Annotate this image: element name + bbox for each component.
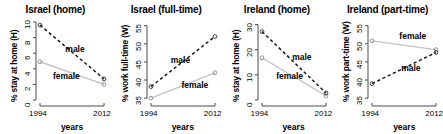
y-axis-tick-label: 0	[23, 103, 32, 107]
y-axis-tick-label: 40	[134, 78, 143, 87]
y-axis-tick-label: 45	[355, 60, 364, 69]
x-axis	[151, 103, 215, 106]
y-axis-tick-label: 0	[245, 103, 254, 107]
x-axis	[372, 103, 436, 106]
y-axis-tick-label: 35	[134, 96, 143, 105]
y-axis-tick-label: 30	[245, 23, 254, 32]
series-annotation-label: female	[181, 80, 208, 90]
series-annotation-label: male	[65, 44, 84, 54]
chart-panel: Ireland (home)% stay at home (H)years010…	[222, 0, 333, 134]
x-axis-tick-label: 2012	[425, 109, 443, 118]
x-axis-tick-label: 2012	[93, 109, 111, 118]
y-axis-tick-label: 35	[355, 96, 364, 105]
y-axis-tick-label: 10	[245, 73, 254, 82]
series-annotation-label: female	[276, 71, 303, 81]
y-axis	[255, 25, 258, 100]
series-annotation-label: male	[401, 63, 420, 73]
x-axis	[40, 103, 104, 106]
chart-panel: Ireland (part-time)% work part-time (W)y…	[332, 0, 443, 134]
y-axis-tick-label: 55	[134, 24, 143, 33]
series-annotation-label: female	[399, 31, 426, 41]
y-axis-tick-label: 55	[355, 24, 364, 33]
y-axis-tick-label: 8	[23, 40, 32, 44]
y-axis	[144, 26, 147, 99]
y-axis-tick-label: 4	[23, 71, 32, 75]
series-annotation-label: male	[171, 55, 190, 65]
x-axis-tick-label: 1994	[361, 109, 379, 118]
y-axis-tick-label: 10	[23, 20, 32, 29]
chart-panel: Israel (home)% stay at home (H)years0246…	[0, 0, 111, 134]
x-axis-tick-label: 1994	[29, 109, 47, 118]
series-annotation-label: female	[53, 71, 80, 81]
y-axis	[33, 22, 36, 100]
y-axis-tick-label: 50	[134, 42, 143, 51]
y-axis-tick-label: 20	[245, 48, 254, 57]
y-axis-tick-label: 45	[134, 60, 143, 69]
series-annotation-label: male	[292, 52, 311, 62]
x-axis-tick-label: 2012	[315, 109, 333, 118]
y-axis-tick-label: 6	[23, 56, 32, 60]
chart-panel: Israel (full-time)% work full-time (W)ye…	[111, 0, 222, 134]
y-axis-tick-label: 40	[355, 78, 364, 87]
x-axis	[262, 103, 326, 106]
multi-panel-line-chart-figure: Israel (home)% stay at home (H)years0246…	[0, 0, 443, 134]
x-axis-tick-label: 1994	[140, 109, 158, 118]
y-axis	[365, 26, 368, 99]
x-axis-tick-label: 2012	[204, 109, 222, 118]
y-axis-tick-label: 2	[23, 87, 32, 91]
y-axis-tick-label: 50	[355, 42, 364, 51]
x-axis-tick-label: 1994	[251, 109, 269, 118]
